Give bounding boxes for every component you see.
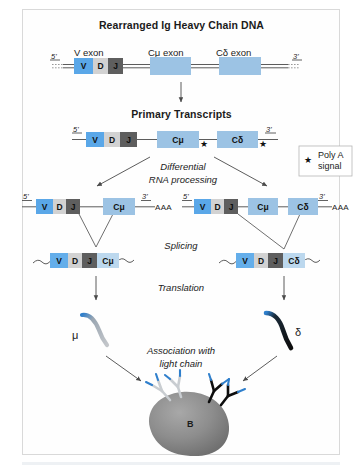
processed-left-segment-d: D [53,199,66,214]
transcript-segment-d: D [104,132,120,147]
processed-left-segment-j: J [66,199,80,214]
processed-right-five-prime: 5' [183,192,189,201]
v-exon-label: V exon [74,47,104,58]
mu-chain-label: μ [72,329,78,341]
step-association-line2: light chain [141,357,221,370]
spliced-left-segment-d: D [68,253,82,268]
dna-segment-cdelta [219,57,261,75]
processed-right-poly-a: AAA [332,203,349,212]
processed-left-poly-a: AAA [155,203,172,212]
processed-left-segment-v: V [36,199,53,214]
step-splicing: Splicing [141,239,221,252]
processed-right-segment-v: V [194,199,211,214]
dna-segment-cmu [150,57,191,75]
poly-a-star-cdelta: ★ [259,140,267,149]
processed-left-five-prime: 5' [23,192,29,201]
spliced-left-segment-v: V [50,253,68,268]
transcript-segment-v: V [86,132,104,147]
step-differential-line1: Differential [133,160,233,173]
legend-poly-a-line1: Poly A [318,150,344,161]
spliced-right-segment-v: V [236,253,254,268]
step-association-line1: Association with [131,344,231,357]
ig-heavy-chain-figure: Rearranged Ig Heavy Chain DNA V exon Cμ … [0,0,363,471]
spliced-left-segment-cmu: Cμ [97,253,119,268]
page-title-transcripts: Primary Transcripts [0,108,363,120]
step-translation: Translation [141,281,221,294]
delta-chain-label: δ [295,326,301,338]
dna-segment-v: V [74,58,93,74]
step-differential-line2: RNA processing [123,173,243,186]
processed-left-segment-cmu: Cμ [103,198,135,215]
transcript-five-prime: 5' [73,125,79,134]
transcript-segment-j: J [120,132,137,147]
processed-right-three-prime: 3' [319,192,325,201]
dna-segment-j: J [108,58,123,74]
poly-a-star-cmu: ★ [200,140,208,149]
b-cell-label: B [187,419,194,429]
processed-right-segment-cmu: Cμ [248,198,278,215]
processed-left-three-prime: 3' [142,192,148,201]
transcript-segment-cdelta: Cδ [217,131,258,148]
processed-right-segment-j: J [224,199,238,214]
dna-three-prime: 3' [293,52,299,61]
spliced-right-segment-cdelta: Cδ [283,253,305,268]
dna-segment-d: D [93,58,108,74]
processed-right-segment-d: D [211,199,224,214]
legend-star-icon: ★ [304,156,312,165]
page-title-dna: Rearranged Ig Heavy Chain DNA [0,19,363,31]
legend-poly-a-line2: signal [318,161,342,172]
processed-right-segment-cdelta: Cδ [288,198,318,215]
dna-five-prime: 5' [51,52,57,61]
transcript-segment-cmu: Cμ [157,131,199,148]
transcript-three-prime: 3' [266,125,272,134]
spliced-right-segment-j: J [268,253,283,268]
spliced-right-segment-d: D [254,253,268,268]
spliced-left-segment-j: J [82,253,97,268]
